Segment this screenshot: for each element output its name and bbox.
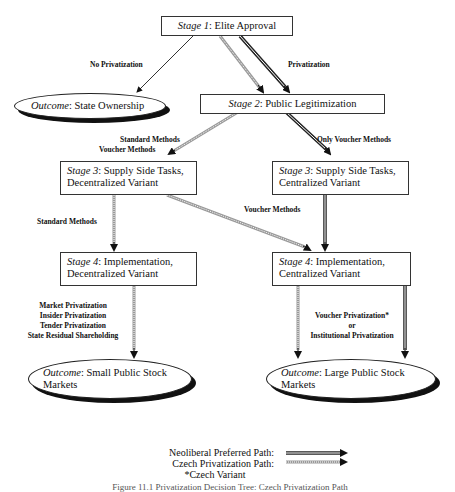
node-stage2-text: : Public Legitimization [260,98,357,109]
node-stage1-prefix: Stage 1 [178,20,209,31]
label-large-method: or [300,321,404,331]
label-small-method: Tender Privatization [16,321,130,331]
legend-czech-label: Czech Privatization Path: [140,458,274,469]
figure-caption: Figure 11.1 Privatization Decision Tree:… [60,482,400,492]
node-outcome-large-line2: Markets [281,379,315,390]
label-no-privatization: No Privatization [90,60,143,70]
edge-no-privatization [137,36,193,92]
label-large-methods: Voucher Privatization* or Institutional … [300,311,404,341]
label-standard-methods: Standard Methods [37,217,97,227]
node-outcome-small: Outcome: Small Public Stock Markets [28,359,192,399]
edge-czech-s3dec-s4cen [167,195,310,250]
label-standard-voucher-2: Voucher Methods [99,145,155,155]
node-stage4-centralized: Stage 4: Implementation, Centralized Var… [272,252,411,286]
legend-neoliberal-label: Neoliberal Preferred Path: [140,447,274,458]
node-outcome-small-prefix: Outcome [43,367,81,378]
label-small-method: Insider Privatization [16,311,130,321]
label-standard-voucher-1: Standard Methods [120,135,180,145]
node-stage4-decentralized: Stage 4: Implementation, Decentralized V… [60,252,197,286]
node-outcome-large-prefix: Outcome [281,367,319,378]
node-stage3-cen-prefix: Stage 3 [279,165,310,176]
edge-neoliberal-s1-s2 [240,36,289,92]
node-outcome-large: Outcome: Large Public Stock Markets [266,359,436,399]
node-stage1-text: : Elite Approval [209,20,276,31]
edge-neoliberal-s2-s3cen [286,112,330,154]
label-only-voucher: Only Voucher Methods [317,135,391,145]
edge-czech-s1-s2 [220,36,263,92]
label-small-methods: Market Privatization Insider Privatizati… [16,301,130,341]
label-small-method: Market Privatization [16,301,130,311]
node-outcome-state-prefix: Outcome [31,100,69,111]
label-large-method: Institutional Privatization [300,331,404,341]
legend-note: *Czech Variant [160,469,270,480]
node-stage3-decentralized: Stage 3: Supply Side Tasks, Decentralize… [60,161,197,195]
node-stage3-cen-line2: Centralized Variant [279,177,360,188]
edge-czech-s2-s3dec [169,112,238,154]
node-outcome-state: Outcome: State Ownership [14,93,166,119]
node-stage2-prefix: Stage 2 [228,98,259,109]
node-stage4-cen-prefix: Stage 4 [279,256,310,267]
label-large-method: Voucher Privatization* [300,311,404,321]
node-stage4-dec-text: : Implementation, [98,256,173,267]
node-stage4-cen-line2: Centralized Variant [279,268,360,279]
node-stage3-centralized: Stage 3: Supply Side Tasks, Centralized … [272,161,409,195]
node-stage3-dec-prefix: Stage 3 [67,165,98,176]
node-stage3-dec-text: : Supply Side Tasks, [98,165,183,176]
node-outcome-small-text: : Small Public Stock [81,367,167,378]
node-outcome-small-line2: Markets [43,379,77,390]
node-stage2: Stage 2: Public Legitimization [200,94,385,114]
legend: Neoliberal Preferred Path: Czech Privati… [140,447,274,469]
node-stage4-cen-text: : Implementation, [310,256,385,267]
label-privatization: Privatization [288,60,330,70]
node-outcome-large-text: : Large Public Stock [319,367,405,378]
node-outcome-state-text: : State Ownership [69,100,144,111]
label-voucher-methods: Voucher Methods [244,205,300,215]
node-stage3-dec-line2: Decentralized Variant [67,177,158,188]
node-stage4-dec-line2: Decentralized Variant [67,268,158,279]
node-stage1: Stage 1: Elite Approval [161,16,293,36]
node-stage3-cen-text: : Supply Side Tasks, [310,165,395,176]
node-stage4-dec-prefix: Stage 4 [67,256,98,267]
label-small-method: State Residual Shareholding [16,331,130,341]
